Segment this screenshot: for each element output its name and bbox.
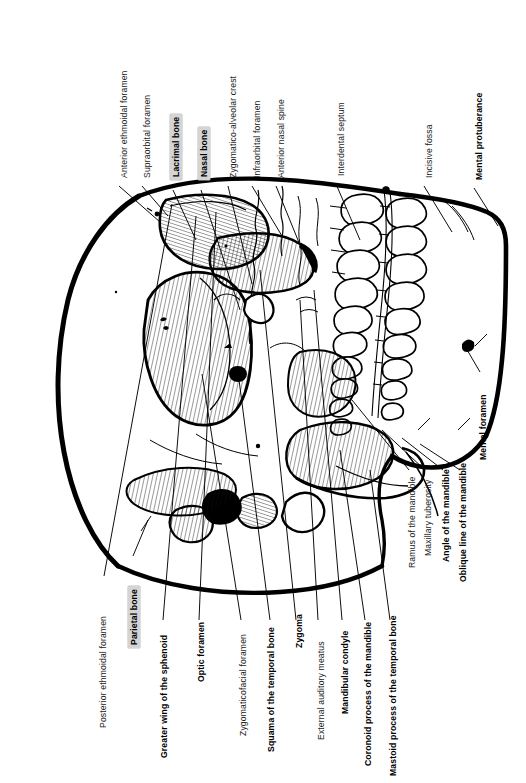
label-incisive-fossa: Incisive fossa xyxy=(424,124,434,178)
label-mental-protuberance: Mental protuberance xyxy=(474,93,484,180)
label-mandibular-condyle: Mandibular condyle xyxy=(340,631,350,714)
label-parietal-bone: Parietal bone xyxy=(128,586,140,648)
label-squama-of-the-temporal-bone: Squama of the temporal bone xyxy=(266,627,276,752)
label-coronoid-process-of-the-mandible: Coronoid process of the mandible xyxy=(363,622,373,766)
label-oblique-line-of-the-mandible: Oblique line of the mandible xyxy=(458,463,468,582)
diagram-canvas: Anterior ethmoidal foramen Supraorbital … xyxy=(0,0,526,783)
label-posterior-ethmoidal-foramen: Posterior ethmoidal foramen xyxy=(98,616,108,728)
label-external-auditory-meatus: External auditory meatus xyxy=(316,641,326,740)
label-anterior-nasal-spine: Anterior nasal spine xyxy=(276,99,286,178)
leader-incisive-fossa xyxy=(424,186,452,232)
label-mental-foramen: Mental foramen xyxy=(478,394,488,460)
label-zygoma: Zygoma xyxy=(294,614,304,648)
label-supraorbital-foramen: Supraorbital foramen xyxy=(142,95,152,178)
leader-parietal-bone xyxy=(133,520,148,556)
teeth-arcade-lower xyxy=(381,198,426,420)
label-ramus-of-the-mandible: Ramus of the mandible xyxy=(407,476,417,568)
leader-mental-foramen xyxy=(466,348,480,372)
label-interdental-septum: Interdental septum xyxy=(336,102,346,176)
label-maxillary-tuberosity: Maxillary tuberosity xyxy=(423,479,433,556)
skull-illustration xyxy=(0,0,526,783)
label-nasal-bone: Nasal bone xyxy=(198,127,210,180)
label-infraorbital-foramen: Infraorbital foramen xyxy=(252,100,262,178)
label-angle-of-the-mandible: Angle of the mandible xyxy=(441,469,451,562)
label-lacrimal-bone: Lacrimal bone xyxy=(170,114,182,180)
label-greater-wing-of-the-sphenoid: Greater wing of the sphenoid xyxy=(159,635,169,758)
nasal-spine-region xyxy=(244,294,273,323)
label-optic-foramen: Optic foramen xyxy=(196,622,206,682)
label-zygomatico-alveolar-crest: Zygomatico-alveolar crest xyxy=(228,76,238,178)
label-anterior-ethmoidal-foramen: Anterior ethmoidal foramen xyxy=(119,70,129,178)
label-zygomaticofacial-foramen: Zygomaticofacial foramen xyxy=(238,634,248,736)
label-mastoid-process-of-the-temporal-bone: Mastoid process of the temporal bone xyxy=(388,615,398,776)
